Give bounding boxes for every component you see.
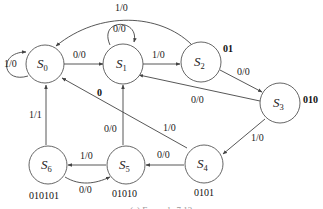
edge-label-s5-s1: 0/0 [104,123,117,134]
state-s6: S6 010101 [29,146,67,201]
edge-label-s1-s1: 0/0 [113,23,126,34]
edge-label-s2-s3: 0/0 [237,66,250,77]
edge-label-s1-s2: 1/0 [152,49,165,60]
edge-s4-s0 [62,78,187,148]
edge-label-s6-s5: 0/0 [79,184,92,195]
edge-label-s3-s1: 0/0 [191,94,204,105]
edge-label-s5-s6: 1/0 [80,150,93,161]
edge-label-s2-s0: 1/0 [115,2,128,13]
edge-label-s6-s0: 1/1 [29,109,42,120]
state-diagram: 1/0 0/0 0/0 1/0 1/0 0/0 0/0 1/0 1/0 0/0 … [0,0,323,209]
state-tag-s4: 0101 [194,187,214,198]
state-tag-s1: 0 [97,87,102,98]
edge-label-s0-s1: 0/0 [73,49,86,60]
state-s3: S3 010 [260,83,318,123]
edge-label-s3-s4: 1/0 [251,132,264,143]
state-s2: S2 01 [181,42,233,82]
edge-label-s0-s0: 1/0 [4,58,17,69]
state-tag-s6: 010101 [29,190,59,201]
edge-label-s4-s0: 1/0 [163,122,176,133]
state-s0: S0 [26,45,64,83]
edge-s6-s5 [65,177,110,183]
state-tag-s3: 010 [303,94,318,105]
figure-caption: (a) Example 7.13 [130,205,193,209]
state-tag-s2: 01 [223,43,233,54]
state-s4: S4 0101 [185,145,223,198]
edge-label-s4-s5: 0/0 [157,149,170,160]
state-tag-s5: 01010 [112,188,137,199]
state-s5: S5 01010 [107,146,145,199]
state-s1: S1 0 [97,44,143,98]
